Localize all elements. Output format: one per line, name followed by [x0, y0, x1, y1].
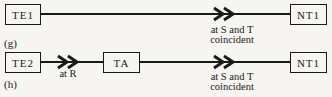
- node-te1: TE1: [5, 4, 41, 25]
- node-ta: TA: [103, 52, 140, 73]
- node-nt1: NT1: [290, 52, 327, 73]
- node-te2: TE2: [5, 52, 41, 73]
- row-label-h: (h): [4, 78, 17, 90]
- annotation-line: coincident: [190, 35, 274, 45]
- connection-annotation: at R: [46, 69, 90, 79]
- connection-annotation: at S and T coincident: [190, 25, 274, 45]
- double-chevron-icon: [212, 6, 236, 22]
- node-nt1: NT1: [290, 4, 327, 25]
- annotation-line: at R: [46, 69, 90, 79]
- annotation-line: coincident: [190, 82, 274, 92]
- connection-annotation: at S and T coincident: [190, 72, 274, 92]
- row-label-g: (g): [4, 37, 17, 49]
- double-chevron-icon: [212, 54, 236, 70]
- connector-line: [41, 13, 290, 15]
- reference-configuration-diagram: TE1 at S and T coincident NT1 (g) TE2 at…: [0, 0, 332, 97]
